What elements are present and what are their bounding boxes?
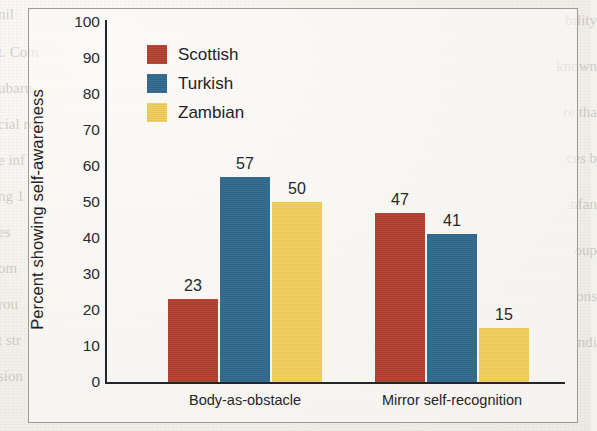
- figure-border-frame: [28, 8, 578, 423]
